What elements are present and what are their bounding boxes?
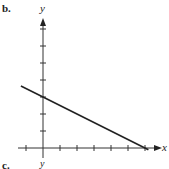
data-line [21,86,148,150]
data-series [21,86,148,150]
axes [18,18,162,158]
chart-plot [0,0,169,169]
